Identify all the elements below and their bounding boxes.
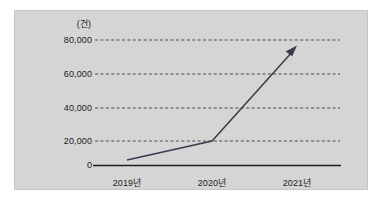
y-tick-label-80000: 80,000 bbox=[44, 35, 92, 45]
x-tick-label-2021: 2021년 bbox=[267, 176, 327, 189]
chart-figure: (건) 80,000 60,000 40,000 20,000 0 2019년 … bbox=[0, 0, 381, 204]
gridlines bbox=[95, 40, 340, 141]
y-tick-label-40000: 40,000 bbox=[44, 103, 92, 113]
x-tick-label-2019: 2019년 bbox=[97, 176, 157, 189]
line-chart-plot bbox=[0, 0, 381, 204]
y-tick-label-60000: 60,000 bbox=[44, 69, 92, 79]
trend-arrowhead bbox=[286, 46, 297, 57]
y-tick-label-0: 0 bbox=[44, 160, 92, 170]
x-tick-label-2020: 2020년 bbox=[182, 176, 242, 189]
data-series-line bbox=[127, 46, 297, 161]
y-axis-unit-label: (건) bbox=[64, 17, 104, 30]
y-tick-label-20000: 20,000 bbox=[44, 136, 92, 146]
